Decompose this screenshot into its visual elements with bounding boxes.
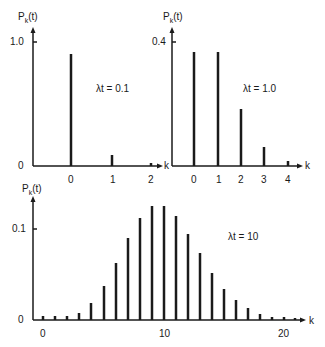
lambda-annotation: λt = 10 [228, 231, 259, 242]
x-axis-label: k [305, 160, 311, 171]
lambda-annotation: λt = 0.1 [96, 83, 130, 94]
y-tick-label: 0 [18, 160, 24, 171]
x-axis-arrow-icon [157, 164, 163, 169]
chart-panel-lambda-1-0: Pk(t) 0.4 0 1 2 3 4 k λt = 1.0 [152, 11, 311, 185]
y-axis-arrow-icon [170, 27, 175, 33]
y-axis-arrow-icon [31, 27, 36, 33]
x-axis-label: k [164, 160, 170, 171]
x-tick-label: 0 [68, 174, 74, 185]
y-tick-label: 1.0 [10, 36, 24, 47]
x-tick-label: 10 [159, 328, 171, 339]
x-tick-label: 20 [278, 328, 290, 339]
x-tick-label: 0 [40, 328, 46, 339]
y-axis-label: Pk(t) [163, 11, 183, 24]
x-tick-label: 2 [238, 174, 244, 185]
x-axis-label: k [309, 315, 315, 326]
y-axis-label: Pk(t) [18, 11, 38, 24]
y-tick-label: 0.1 [12, 223, 26, 234]
bars-lambda-10 [43, 206, 295, 320]
lambda-annotation: λt = 1.0 [243, 83, 277, 94]
x-axis-arrow-icon [300, 318, 306, 323]
x-tick-label: 1 [216, 174, 222, 185]
y-axis-label: Pk(t) [22, 183, 42, 196]
x-tick-label: 3 [261, 174, 267, 185]
chart-panel-lambda-0-1: Pk(t) 1.0 0 0 1 2 k λt = 0.1 [10, 11, 170, 185]
y-axis-arrow-icon [31, 196, 36, 202]
x-tick-label: 0 [191, 174, 197, 185]
x-tick-label: 1 [110, 174, 116, 185]
y-tick-label: 0 [18, 314, 24, 325]
x-axis-arrow-icon [297, 164, 303, 169]
poisson-distribution-figure: Pk(t) 1.0 0 0 1 2 k λt = 0.1 Pk(t) 0.4 0… [0, 0, 325, 347]
x-tick-label: 4 [285, 174, 291, 185]
y-tick-label: 0.4 [152, 36, 166, 47]
x-tick-label: 2 [148, 174, 154, 185]
chart-panel-lambda-10: Pk(t) 0.1 0 [12, 183, 315, 339]
